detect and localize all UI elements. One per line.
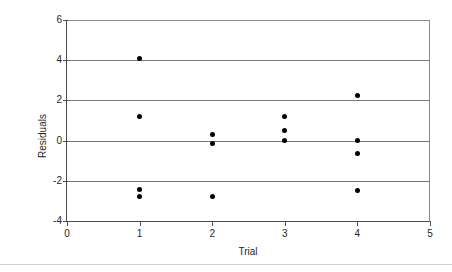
y-axis-tick-label: 6	[56, 15, 62, 25]
gridline-y-6	[67, 20, 430, 21]
y-axis-tick	[63, 181, 68, 182]
x-axis-tick-label: 3	[282, 229, 288, 239]
data-point	[210, 194, 215, 199]
y-axis-tick-label: -2	[53, 176, 62, 186]
gridline-y-2	[67, 100, 430, 101]
x-axis-tick	[140, 221, 141, 226]
x-axis-tick-label: 1	[137, 229, 143, 239]
plot-area: -4-20246012345	[66, 20, 430, 222]
data-point	[137, 56, 142, 61]
y-axis-tick-label: 0	[56, 136, 62, 146]
gridline-y-0	[67, 141, 430, 142]
x-axis-tick-label: 4	[355, 229, 361, 239]
x-axis-tick-label: 2	[209, 229, 215, 239]
data-point	[137, 114, 142, 119]
gridline-y--2	[67, 181, 430, 182]
x-axis-tick-label: 5	[427, 229, 433, 239]
y-axis-tick	[63, 141, 68, 142]
data-point	[355, 151, 360, 156]
y-axis-tick	[63, 100, 68, 101]
data-point	[137, 187, 142, 192]
residual-plot-figure: Residuals -4-20246012345 Trial	[0, 0, 452, 272]
data-point	[137, 194, 142, 199]
y-axis-tick-label: 2	[56, 95, 62, 105]
data-point	[355, 188, 360, 193]
data-point	[355, 93, 360, 98]
y-axis-tick	[63, 60, 68, 61]
y-axis-title: Residuals	[37, 114, 48, 158]
x-axis-tick	[357, 221, 358, 226]
gridline-y-4	[67, 60, 430, 61]
data-point	[210, 132, 215, 137]
plot-right-border	[429, 20, 430, 222]
data-point	[282, 138, 287, 143]
y-axis-tick	[63, 20, 68, 21]
data-point	[355, 138, 360, 143]
data-point	[210, 141, 215, 146]
x-axis-tick-label: 0	[64, 229, 70, 239]
data-point	[282, 128, 287, 133]
y-axis-tick-label: 4	[56, 55, 62, 65]
y-axis-tick-label: -4	[53, 216, 62, 226]
x-axis-tick	[430, 221, 431, 226]
footer-divider	[0, 264, 452, 265]
x-axis-tick	[67, 221, 68, 226]
x-axis-tick	[212, 221, 213, 226]
x-axis-tick	[285, 221, 286, 226]
x-axis-title: Trial	[66, 246, 430, 257]
data-point	[282, 114, 287, 119]
